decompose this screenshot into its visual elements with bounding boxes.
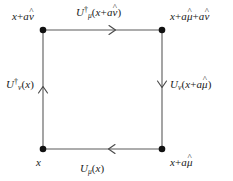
vertex-top-right	[159, 27, 166, 34]
corner-tr-hat-group-2: ^ν	[204, 11, 209, 22]
right-link-symbol: U	[170, 78, 178, 90]
plaquette-figure: x+a^ν x+a^μ+a^ν x x+a^μ U†μ(x+a^ν) Uν(x+…	[0, 0, 233, 181]
hat-icon: ^	[187, 7, 193, 16]
right-link-paren-close: )	[208, 78, 212, 90]
hat-icon: ^	[29, 7, 34, 16]
vertex-bottom-left	[40, 146, 47, 153]
hat-icon: ^	[187, 153, 193, 162]
corner-bl-base: x	[36, 156, 41, 168]
edge-label-left: U†ν(x)	[6, 78, 34, 91]
edge-label-bottom: Uμ(x)	[80, 163, 104, 176]
left-link-paren-close: )	[30, 78, 34, 90]
hat-icon: ^	[202, 75, 208, 84]
corner-tr-hat-group-1: ^μ	[187, 11, 193, 22]
corner-label-top-right: x+a^μ+a^ν	[170, 11, 209, 22]
corner-tl-hat-group: ^ν	[29, 11, 34, 22]
top-link-symbol: U	[76, 6, 84, 18]
top-link-paren-close: )	[117, 6, 121, 18]
corner-label-bottom-right: x+a^μ	[170, 157, 193, 168]
right-link-hat-group: ^μ	[202, 79, 208, 90]
hat-icon: ^	[112, 3, 117, 12]
corner-label-top-left: x+a^ν	[12, 11, 34, 22]
vertex-top-left	[40, 27, 47, 34]
bottom-link-symbol: U	[80, 162, 88, 174]
edge-label-top: U†μ(x+a^ν)	[76, 6, 121, 19]
corner-br-hat-group: ^μ	[187, 157, 193, 168]
hat-icon: ^	[204, 7, 209, 16]
edge-label-right: Uν(x+a^μ)	[170, 79, 211, 92]
bottom-link-paren-close: )	[101, 162, 105, 174]
vertex-bottom-right	[159, 146, 166, 153]
left-link-symbol: U	[6, 78, 14, 90]
corner-label-bottom-left: x	[36, 157, 41, 168]
top-link-hat-group: ^ν	[112, 7, 117, 18]
